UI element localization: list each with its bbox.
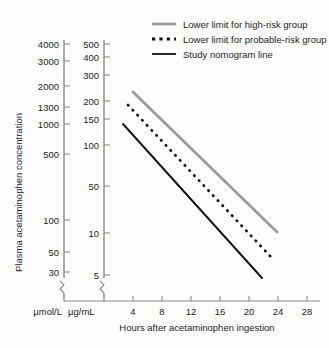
right-tick-label-100: 100 (83, 140, 99, 151)
left-tick-label-3000: 3000 (38, 56, 59, 67)
left-axis-ticks (64, 44, 70, 272)
left-tick-label-500: 500 (43, 149, 59, 160)
x-axis-ticks (133, 296, 307, 301)
x-tick-label-20: 20 (244, 306, 255, 317)
right-tick-label-200: 200 (83, 96, 99, 107)
left-tick-label-30: 30 (48, 267, 59, 278)
y-axis-title: Plasma acetaminophen concentration (13, 113, 24, 272)
acetaminophen-nomogram-chart: Plasma acetaminophen concentration 4000 … (0, 0, 329, 348)
x-tick-label-24: 24 (273, 306, 284, 317)
legend-label-high-risk: Lower limit for high-risk group (183, 19, 308, 30)
series-line-study-nomogram (123, 124, 262, 278)
series-line-probable-risk (128, 105, 272, 258)
left-tick-label-50: 50 (48, 247, 59, 258)
left-tick-label-2000: 2000 (38, 81, 59, 92)
left-tick-label-4000: 4000 (38, 39, 59, 50)
left-axis-unit-label: µmol/L (33, 306, 62, 317)
left-tick-label-100: 100 (43, 215, 59, 226)
right-tick-label-300: 300 (83, 70, 99, 81)
right-tick-label-5: 5 (94, 270, 99, 281)
right-tick-label-10: 10 (88, 228, 99, 239)
chart-canvas: Plasma acetaminophen concentration 4000 … (0, 0, 329, 348)
legend-label-probable-risk: Lower limit for probable-risk group (183, 34, 327, 45)
series-line-high-risk (133, 92, 277, 232)
left-axis-break-icon (60, 281, 64, 293)
right-tick-label-500: 500 (83, 39, 99, 50)
right-tick-label-400: 400 (83, 52, 99, 63)
right-tick-label-50: 50 (88, 181, 99, 192)
right-axis-break-icon (100, 281, 104, 293)
right-axis-unit-label: µg/mL (68, 306, 95, 317)
left-tick-label-1000: 1000 (38, 119, 59, 130)
right-tick-label-150: 150 (83, 114, 99, 125)
chart-legend: Lower limit for high-risk group Lower li… (152, 19, 327, 60)
legend-label-study-nomogram: Study nomogram line (183, 49, 273, 60)
x-tick-label-28: 28 (302, 306, 313, 317)
x-tick-label-4: 4 (130, 306, 135, 317)
x-tick-label-16: 16 (215, 306, 226, 317)
x-tick-label-12: 12 (186, 306, 197, 317)
x-axis-title: Hours after acetaminophen ingestion (119, 322, 274, 333)
x-tick-label-8: 8 (159, 306, 164, 317)
left-tick-label-1300: 1300 (38, 102, 59, 113)
right-axis-ticks (104, 44, 110, 275)
